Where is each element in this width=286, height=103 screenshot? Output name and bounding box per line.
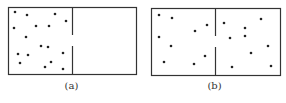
particle-dot <box>14 11 17 14</box>
caption-a: (a) <box>0 80 143 91</box>
particle-dot <box>250 52 253 55</box>
particle-dot <box>19 62 22 65</box>
particle-dot <box>231 66 234 69</box>
particle-dot <box>65 20 68 23</box>
particle-dot <box>206 24 209 27</box>
particle-dot <box>244 27 247 30</box>
particle-dot <box>170 45 173 48</box>
panel-b: (b) <box>143 0 286 103</box>
particle-dot <box>244 35 247 38</box>
particle-dot <box>62 52 65 55</box>
particle-dot <box>270 65 273 68</box>
particle-dot <box>13 27 16 30</box>
particle-dot <box>260 18 263 21</box>
particle-dot <box>204 55 207 58</box>
particle-dot <box>62 68 65 71</box>
particle-dot <box>44 66 47 69</box>
particle-dot <box>27 54 30 57</box>
panel-a: (a) <box>0 0 143 103</box>
particle-dot <box>17 53 20 56</box>
particle-dot <box>158 14 161 17</box>
particle-dot <box>194 30 197 33</box>
particle-dot <box>35 25 38 28</box>
particle-dot <box>163 61 166 64</box>
particle-dot <box>158 36 161 39</box>
particle-dot <box>47 46 50 49</box>
particle-dot <box>223 22 226 25</box>
particle-dot <box>54 13 57 16</box>
particle-dot <box>171 17 174 20</box>
particle-dot <box>50 61 53 64</box>
particle-dot <box>48 25 51 28</box>
particle-dot <box>229 37 232 40</box>
particle-dot <box>26 14 29 17</box>
caption-b: (b) <box>143 80 286 91</box>
particle-dot <box>40 45 43 48</box>
particle-dot <box>193 63 196 66</box>
particle-dot <box>25 36 28 39</box>
particle-dot <box>267 45 270 48</box>
